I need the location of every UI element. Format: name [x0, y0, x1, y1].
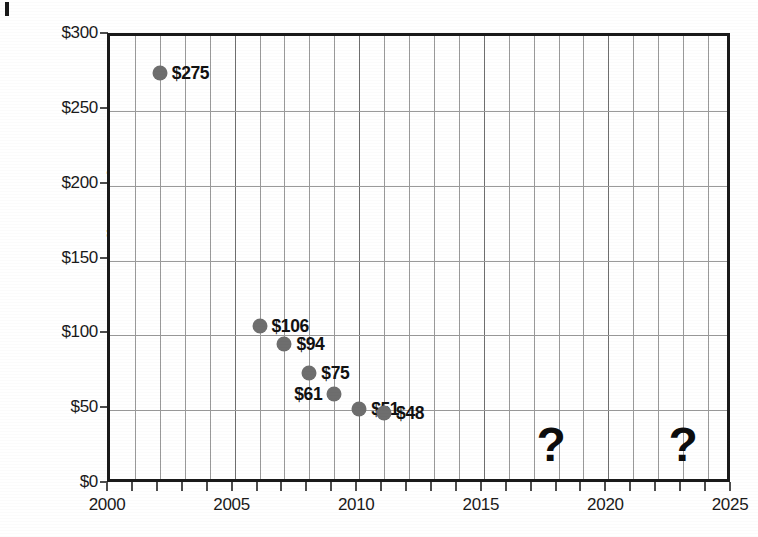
y-axis-tick-label: $250 [38, 98, 98, 118]
gridline-vertical [284, 36, 285, 479]
y-axis-tick-label: $200 [38, 173, 98, 193]
x-axis-tick-mark [380, 482, 382, 491]
plot-inner: $275$106$94$75$61$51$48?? [110, 36, 727, 479]
x-axis-tick-mark [629, 482, 631, 491]
data-point[interactable] [277, 337, 292, 352]
gridline-vertical [434, 36, 435, 479]
x-axis-tick-mark [729, 482, 731, 491]
gridline-vertical [235, 36, 236, 479]
y-axis-tick-labels: $0$50$100$150$200$250$300 [36, 0, 98, 537]
gridline-vertical [608, 36, 609, 479]
question-mark-annotation: ? [668, 421, 697, 469]
x-axis-tick-mark [231, 482, 233, 491]
question-mark-annotation: ? [536, 421, 565, 469]
x-axis-tick-mark [355, 482, 357, 491]
data-point-label: $61 [294, 383, 322, 404]
x-axis-tick-mark [280, 482, 282, 491]
x-axis-tick-mark [654, 482, 656, 491]
x-axis-tick-mark [131, 482, 133, 491]
x-axis-tick-mark [330, 482, 332, 491]
x-axis-tick-label: 2015 [436, 495, 526, 515]
gridline-vertical [509, 36, 510, 479]
x-axis-tick-mark [106, 482, 108, 491]
x-axis-tick-label: 2025 [685, 495, 758, 515]
gridline-vertical [708, 36, 709, 479]
data-point-label: $75 [321, 362, 349, 383]
gridline-vertical [135, 36, 136, 479]
plot-area: $275$106$94$75$61$51$48?? [107, 33, 730, 482]
gridline-vertical [683, 36, 684, 479]
gridline-vertical [160, 36, 161, 479]
x-axis-tick-label: 2005 [187, 495, 277, 515]
gridline-vertical [484, 36, 485, 479]
x-axis-tick-mark [430, 482, 432, 491]
x-axis-tick-mark [505, 482, 507, 491]
gridline-horizontal [110, 261, 727, 262]
y-axis-tick-label: $150 [38, 248, 98, 268]
x-axis-tick-label: 2010 [311, 495, 401, 515]
data-point[interactable] [327, 386, 342, 401]
x-axis-tick-mark [156, 482, 158, 491]
gridline-horizontal [110, 335, 727, 336]
chart-canvas: Current Year Dollars per kW $0$50$100$15… [0, 0, 758, 537]
x-axis-tick-mark [305, 482, 307, 491]
gridline-horizontal [110, 111, 727, 112]
gridline-vertical [309, 36, 310, 479]
x-axis-tick-mark [579, 482, 581, 491]
y-axis-tick-label: $50 [38, 397, 98, 417]
gridline-horizontal [110, 186, 727, 187]
data-point[interactable] [302, 365, 317, 380]
x-axis-tick-mark [405, 482, 407, 491]
data-point[interactable] [352, 401, 367, 416]
data-point[interactable] [377, 406, 392, 421]
x-axis-tick-mark [555, 482, 557, 491]
x-axis-tick-mark [206, 482, 208, 491]
data-point-label: $48 [396, 403, 424, 424]
x-axis-tick-mark [679, 482, 681, 491]
gridline-vertical [210, 36, 211, 479]
y-axis-tick-label: $100 [38, 322, 98, 342]
page-corner-mark [5, 2, 9, 16]
gridline-vertical [334, 36, 335, 479]
x-axis-tick-mark [455, 482, 457, 491]
gridline-vertical [534, 36, 535, 479]
x-axis-tick-mark [704, 482, 706, 491]
x-axis-tick-mark [480, 482, 482, 491]
x-axis-tick-mark [256, 482, 258, 491]
data-point[interactable] [152, 66, 167, 81]
gridline-vertical [583, 36, 584, 479]
x-axis-tick-mark [604, 482, 606, 491]
gridline-vertical [459, 36, 460, 479]
data-point-label: $275 [172, 63, 209, 84]
data-point-label: $94 [296, 334, 324, 355]
gridline-vertical [633, 36, 634, 479]
x-axis-tick-label: 2000 [62, 495, 152, 515]
gridline-vertical [260, 36, 261, 479]
x-axis-tick-mark [530, 482, 532, 491]
y-axis-tick-label: $0 [38, 472, 98, 492]
gridline-vertical [185, 36, 186, 479]
data-point[interactable] [252, 319, 267, 334]
gridline-vertical [658, 36, 659, 479]
x-axis-tick-mark [181, 482, 183, 491]
x-axis-tick-label: 2020 [560, 495, 650, 515]
gridline-vertical [559, 36, 560, 479]
y-axis-tick-label: $300 [38, 23, 98, 43]
